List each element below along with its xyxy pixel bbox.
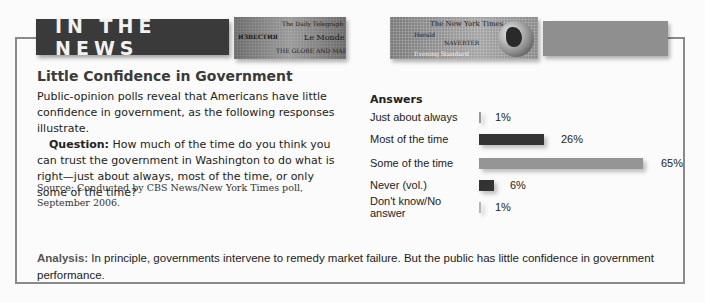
analysis-label: Analysis: — [37, 252, 88, 264]
answer-label: Most of the time — [370, 133, 479, 145]
answers-heading: Answers — [370, 93, 423, 106]
newspaper-globe-image: The New York Times Herald NAVERTER Eveni… — [390, 17, 538, 59]
answer-value: 26% — [561, 133, 583, 145]
masthead-text: THE GLOBE AND MAIL — [276, 47, 346, 54]
masthead-text: Le Monde — [304, 33, 345, 42]
masthead-text: The Daily Telegraph — [282, 20, 343, 27]
answer-bar — [479, 158, 643, 169]
answer-bar — [479, 134, 544, 145]
masthead-text: Evening Standard — [414, 50, 469, 57]
newspaper-collage-image: The Daily Telegraph ИЗВЕСТИЯ Le Monde TH… — [234, 17, 346, 59]
answer-value: 65% — [661, 157, 683, 169]
intro-text: Public-opinion polls reveal that America… — [37, 90, 334, 135]
answer-label: Don't know/No answer — [370, 195, 479, 219]
question-label: Question: — [49, 138, 109, 151]
answer-label: Never (vol.) — [370, 179, 479, 191]
answer-row: Just about always 1% — [370, 109, 511, 125]
answer-row: Some of the time 65% — [370, 155, 683, 171]
decorative-gray-box — [543, 21, 668, 56]
globe-icon — [498, 21, 534, 57]
answer-row: Most of the time 26% — [370, 131, 583, 147]
in-the-news-banner: IN THE NEWS — [36, 19, 229, 55]
answer-value: 1% — [495, 111, 511, 123]
article-title: Little Confidence in Government — [37, 68, 293, 84]
masthead-text: Herald — [414, 31, 435, 38]
masthead-text: ИЗВЕСТИЯ — [238, 33, 278, 40]
masthead-text: The New York Times — [430, 20, 503, 28]
answer-label: Some of the time — [370, 157, 479, 169]
answer-row: Don't know/No answer 1% — [370, 199, 511, 215]
answer-row: Never (vol.) 6% — [370, 177, 526, 193]
analysis-paragraph: Analysis: In principle, governments inte… — [37, 250, 677, 284]
answer-value: 1% — [495, 201, 511, 213]
masthead-text: NAVERTER — [444, 39, 479, 46]
frame-border — [15, 37, 37, 39]
answer-bar — [479, 112, 481, 123]
banner-label: IN THE NEWS — [55, 15, 229, 59]
answer-bar — [479, 180, 494, 191]
answer-bar — [479, 202, 481, 213]
analysis-text: In principle, governments intervene to r… — [37, 252, 654, 281]
answer-label: Just about always — [370, 111, 479, 123]
answer-value: 6% — [510, 179, 526, 191]
source-note: Source: Conducted by CBS News/New York T… — [37, 180, 337, 210]
